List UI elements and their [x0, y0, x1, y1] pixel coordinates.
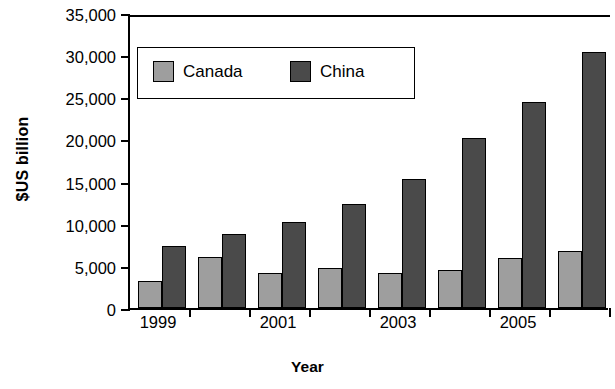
bar-canada-2003 [378, 273, 402, 308]
x-tick-label: 2001 [260, 313, 297, 332]
y-tick-mark [121, 98, 130, 100]
legend-swatch-canada [153, 61, 174, 82]
bar-china-2001 [282, 222, 306, 308]
x-axis-tick-labels: 1999200120032005 [0, 313, 615, 341]
y-tick-label: 20,000 [66, 132, 116, 151]
legend-item-canada: Canada [153, 61, 243, 82]
bar-canada-2002 [318, 268, 342, 308]
legend-label-china: China [320, 62, 364, 82]
y-tick-mark [121, 140, 130, 142]
bar-chart: $US billion 05,00010,00015,00020,00025,0… [0, 0, 615, 389]
bar-china-2002 [342, 204, 366, 309]
y-tick-label: 30,000 [66, 48, 116, 67]
bar-china-2000 [222, 234, 246, 308]
bar-canada-1999 [138, 281, 162, 308]
y-tick-mark [121, 225, 130, 227]
y-tick-mark [121, 183, 130, 185]
legend-swatch-china [290, 61, 311, 82]
bar-canada-2004 [438, 270, 462, 308]
bar-canada-2000 [198, 257, 222, 308]
y-tick-mark [121, 267, 130, 269]
chart-legend: Canada China [137, 47, 415, 99]
legend-label-canada: Canada [183, 62, 243, 82]
y-tick-mark [121, 14, 130, 16]
bar-china-2004 [462, 138, 486, 308]
y-tick-label: 35,000 [66, 6, 116, 25]
y-tick-label: 25,000 [66, 90, 116, 109]
bar-canada-2001 [258, 273, 282, 308]
y-tick-mark [121, 309, 130, 311]
y-tick-label: 15,000 [66, 174, 116, 193]
x-axis-title: Year [0, 358, 615, 376]
y-tick-mark [121, 56, 130, 58]
bar-china-1999 [162, 246, 186, 308]
bar-canada-2005 [498, 258, 522, 308]
bar-canada-2006 [558, 251, 582, 308]
x-tick-label: 1999 [140, 313, 177, 332]
y-tick-label: 10,000 [66, 216, 116, 235]
x-tick-label: 2005 [500, 313, 537, 332]
y-tick-label: 5,000 [75, 258, 116, 277]
bar-china-2003 [402, 179, 426, 308]
bar-china-2005 [522, 102, 546, 309]
bar-china-2006 [582, 52, 606, 308]
x-tick-label: 2003 [380, 313, 417, 332]
legend-item-china: China [290, 61, 364, 82]
